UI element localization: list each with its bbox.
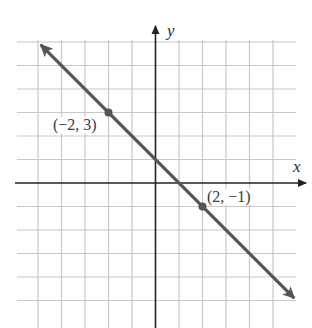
- x-axis-label: x: [293, 158, 301, 175]
- point-label-b: (2, −1): [206, 189, 252, 205]
- line-series: [40, 44, 294, 298]
- data-point-a: [105, 109, 113, 117]
- grid-lines: [17, 40, 296, 328]
- line-y-equals-neg-x-plus-1: [41, 45, 294, 298]
- y-axis-label: y: [167, 22, 175, 39]
- point-label-a: (−2, 3): [52, 117, 98, 133]
- coordinate-plane: [0, 0, 312, 328]
- axes: [15, 26, 306, 328]
